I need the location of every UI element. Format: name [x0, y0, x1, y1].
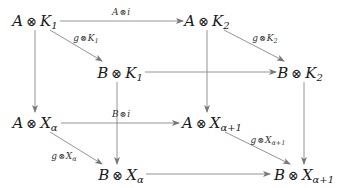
tensor-symbol: ⊗ — [23, 116, 40, 131]
node-right: X — [126, 166, 137, 184]
label-subscript: α — [72, 155, 76, 163]
node-right: K — [212, 12, 223, 30]
label-g-tensor-K2: g⊗K2 — [252, 34, 277, 43]
node-left: B — [277, 64, 288, 82]
node-B-tensor-X-alpha: B⊗Xα — [98, 168, 143, 183]
label-subscript: 2 — [274, 37, 278, 45]
label-left: g — [73, 33, 79, 43]
node-subscript: α — [51, 122, 58, 133]
node-A-tensor-X-alpha-plus-1: A⊗Xα+1 — [182, 116, 242, 131]
label-subscript: 1 — [95, 37, 99, 45]
node-left: B — [97, 64, 108, 82]
node-left: A — [184, 12, 195, 30]
label-g-tensor-X-alpha: g⊗Xα — [51, 152, 76, 161]
tensor-symbol: ⊗ — [288, 66, 305, 81]
label-left: B — [112, 109, 119, 119]
label-left: g — [251, 135, 257, 145]
label-A-tensor-i: A⊗i — [112, 8, 130, 17]
label-right: i — [127, 7, 130, 17]
commutative-diagram: A⊗K1 A⊗K2 B⊗K1 B⊗K2 A⊗Xα A⊗Xα+1 B⊗Xα B⊗X… — [0, 0, 343, 188]
node-B-tensor-K1: B⊗K1 — [97, 66, 143, 81]
tensor-symbol: ⊗ — [193, 116, 210, 131]
tensor-symbol: ⊗ — [23, 14, 40, 29]
node-left: B — [274, 166, 285, 184]
node-subscript: 2 — [316, 72, 322, 83]
node-right: K — [305, 64, 316, 82]
node-B-tensor-K2: B⊗K2 — [277, 66, 323, 81]
label-left: g — [51, 151, 57, 161]
node-right: X — [40, 114, 51, 132]
tensor-symbol: ⊗ — [118, 8, 127, 17]
node-left: A — [182, 114, 193, 132]
node-right: K — [125, 64, 136, 82]
node-right: X — [210, 114, 221, 132]
node-subscript: α+1 — [313, 174, 335, 185]
tensor-symbol: ⊗ — [109, 168, 126, 183]
node-A-tensor-K1: A⊗K1 — [12, 14, 57, 29]
node-right: K — [40, 12, 51, 30]
label-left: g — [252, 33, 258, 43]
tensor-symbol: ⊗ — [108, 66, 125, 81]
node-right: X — [302, 166, 313, 184]
node-subscript: 1 — [136, 72, 142, 83]
node-left: A — [12, 114, 23, 132]
node-subscript: 1 — [51, 20, 57, 31]
label-g-tensor-X-alpha-plus-1: g⊗Xα+1 — [251, 136, 286, 145]
tensor-symbol: ⊗ — [195, 14, 212, 29]
node-subscript: 2 — [223, 20, 229, 31]
node-B-tensor-X-alpha-plus-1: B⊗Xα+1 — [274, 168, 334, 183]
node-left: A — [12, 12, 23, 30]
node-subscript: α — [137, 174, 144, 185]
node-left: B — [98, 166, 109, 184]
label-B-tensor-i: B⊗i — [112, 110, 130, 119]
label-right: i — [127, 109, 130, 119]
label-subscript: α+1 — [271, 139, 285, 147]
label-g-tensor-K1: g⊗K1 — [73, 34, 98, 43]
label-left: A — [112, 7, 119, 17]
node-subscript: α+1 — [220, 122, 242, 133]
node-A-tensor-X-alpha: A⊗Xα — [12, 116, 57, 131]
tensor-symbol: ⊗ — [285, 168, 302, 183]
node-A-tensor-K2: A⊗K2 — [184, 14, 229, 29]
